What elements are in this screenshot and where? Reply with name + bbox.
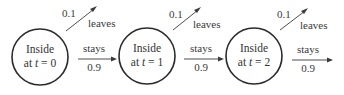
transition-t2: 0.1 leaves stays 0.9: [277, 8, 333, 74]
state-label-line2: at t = 2: [238, 56, 271, 68]
stay-probability: 0.9: [301, 62, 315, 74]
stay-label: stays: [297, 43, 319, 55]
markov-chain-diagram: Inside at t = 0 0.1 leaves stays 0.9 Ins…: [0, 0, 344, 95]
leave-probability: 0.1: [169, 8, 183, 20]
stay-label: stays: [83, 42, 105, 54]
state-node-t2: Inside at t = 2: [226, 28, 282, 84]
stay-label: stays: [190, 42, 212, 54]
state-label-line2: at t = 1: [131, 56, 164, 68]
leave-probability: 0.1: [62, 7, 76, 19]
state-node-t0: Inside at t = 0: [12, 29, 68, 85]
leave-label: leaves: [193, 18, 220, 30]
leave-probability: 0.1: [277, 8, 291, 20]
leave-label: leaves: [88, 17, 115, 29]
state-label-line1: Inside: [240, 42, 268, 54]
leave-label: leaves: [300, 19, 327, 31]
transition-t0: 0.1 leaves stays 0.9: [62, 6, 117, 73]
stay-probability: 0.9: [194, 61, 208, 73]
state-label-line1: Inside: [26, 43, 54, 55]
transition-t1: 0.1 leaves stays 0.9: [169, 7, 224, 73]
state-node-t1: Inside at t = 1: [119, 28, 175, 84]
arrow-head-icon: [327, 58, 333, 63]
state-label-line2: at t = 0: [24, 57, 57, 69]
state-label-line1: Inside: [133, 42, 161, 54]
stay-probability: 0.9: [87, 61, 101, 73]
arrow-head-icon: [218, 57, 224, 62]
arrow-head-icon: [111, 57, 117, 62]
